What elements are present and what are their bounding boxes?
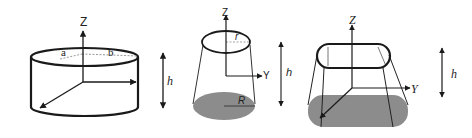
height-label: h bbox=[167, 74, 173, 88]
prism-base-shaded bbox=[308, 95, 408, 127]
height-label: h bbox=[451, 67, 457, 81]
label-b: b bbox=[108, 46, 114, 58]
prism-back-right bbox=[378, 47, 386, 66]
y-axis-label: Y bbox=[411, 82, 419, 96]
z-axis-label: Z bbox=[222, 7, 228, 18]
label-a: a bbox=[61, 46, 66, 58]
z-axis-label: Z bbox=[80, 15, 87, 29]
geometry-diagram: Z a b h Z Y r R h bbox=[0, 0, 472, 138]
cylinder-bottom-arc bbox=[31, 107, 138, 116]
cone-right-side bbox=[250, 45, 255, 104]
figure-elliptic-cylinder: Z a b h bbox=[31, 15, 173, 116]
figure-truncated-cone: Z Y r R h bbox=[193, 7, 292, 120]
figure-truncated-stadium-prism: Z Y h bbox=[308, 13, 457, 127]
height-label: h bbox=[286, 66, 292, 78]
cone-left-side bbox=[193, 45, 203, 104]
cylinder-top-ellipse bbox=[31, 48, 138, 66]
z-axis-label: Z bbox=[349, 13, 356, 27]
x-axis-arrow bbox=[40, 82, 83, 108]
y-axis-label: Y bbox=[263, 70, 270, 81]
radius-R-label: R bbox=[238, 95, 245, 106]
